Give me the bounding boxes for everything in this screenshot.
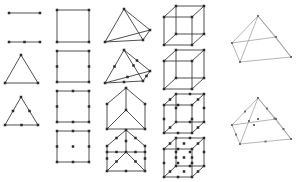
lattice-point (142, 39, 145, 42)
lattice-point (197, 170, 200, 173)
lattice-point (191, 104, 194, 107)
lattice-point (106, 145, 109, 148)
lattice-point (191, 16, 194, 19)
lattice-point (56, 65, 59, 68)
lattice-point (191, 88, 194, 91)
lattice-point (125, 140, 128, 143)
lattice-point (163, 104, 166, 107)
lattice-point (56, 41, 59, 44)
lattice-point (253, 124, 255, 126)
lattice-point (235, 134, 237, 136)
lattice-point (106, 157, 109, 160)
lattice-point (88, 161, 91, 164)
lattice-point (183, 170, 186, 173)
lattice-point (191, 132, 194, 135)
lattice-point (248, 120, 250, 122)
lattice-point (177, 104, 180, 107)
lattice-point (265, 141, 267, 143)
lattice-point (191, 156, 194, 159)
lattice-point (203, 49, 206, 52)
lattice-point (115, 137, 118, 140)
lattice-point (177, 176, 180, 179)
lattice-point (37, 82, 40, 85)
lattice-point (8, 41, 11, 44)
lattice-point (290, 56, 292, 58)
lattice-point (189, 93, 192, 96)
lattice-point (175, 137, 178, 140)
lattice-point (88, 105, 91, 108)
lattice-point (203, 93, 206, 96)
lattice-point (28, 110, 31, 113)
lattice-point (88, 9, 91, 12)
lattice-point (183, 142, 186, 145)
lattice-point (142, 80, 145, 83)
lattice-point (175, 156, 178, 159)
lattice-point (283, 128, 285, 130)
lattice-point (163, 118, 166, 121)
lattice-point (163, 162, 166, 165)
lattice-point (123, 8, 126, 11)
lattice-point (163, 88, 166, 91)
lattice-point (275, 36, 277, 38)
lattice-point (88, 90, 91, 93)
lattice-point (175, 49, 178, 52)
lattice-point (88, 121, 91, 124)
lattice-point (126, 76, 129, 79)
lattice-point (132, 64, 135, 67)
lattice-point (203, 77, 206, 80)
lattice-point (123, 81, 126, 84)
lattice-point (175, 77, 178, 80)
lattice-point (175, 5, 178, 8)
lattice-point (197, 142, 200, 145)
lattice-point (257, 118, 259, 120)
lattice-point (149, 70, 152, 73)
lattice-point (125, 170, 128, 173)
lattice-point (104, 41, 107, 44)
lattice-point (136, 59, 139, 62)
lattice-point (169, 142, 172, 145)
lattice-point (134, 137, 137, 140)
lattice-point (144, 157, 147, 160)
lattice-point (106, 128, 109, 131)
lattice-point (203, 5, 206, 8)
lattice-point (290, 138, 292, 140)
lattice-point (144, 145, 147, 148)
polytope-diagram-canvas (0, 0, 299, 182)
lattice-point (72, 90, 75, 93)
lattice-point (191, 118, 194, 121)
lattice-point (189, 151, 192, 154)
lattice-point (106, 103, 109, 106)
lattice-point (183, 156, 186, 159)
lattice-point (169, 126, 172, 129)
lattice-point (203, 33, 206, 36)
lattice-point (191, 44, 194, 47)
lattice-point (88, 41, 91, 44)
lattice-point (169, 98, 172, 101)
lattice-point (203, 165, 206, 168)
lattice-point (191, 60, 194, 63)
lattice-point (115, 160, 118, 163)
lattice-point (39, 41, 42, 44)
lattice-point (189, 121, 192, 124)
lattice-point (113, 65, 116, 68)
lattice-point (144, 103, 147, 106)
lattice-point (163, 176, 166, 179)
lattice-point (197, 126, 200, 129)
lattice-point (56, 121, 59, 124)
lattice-point (56, 9, 59, 12)
lattice-point (189, 137, 192, 140)
lattice-point (125, 87, 128, 90)
lattice-point (56, 145, 59, 148)
lattice-point (20, 96, 23, 99)
lattice-point (123, 49, 126, 52)
lattice-point (203, 121, 206, 124)
lattice-point (88, 81, 91, 84)
lattice-point (203, 137, 206, 140)
lattice-point (4, 82, 7, 85)
lattice-point (175, 33, 178, 36)
lattice-point (134, 160, 137, 163)
lattice-point (244, 111, 246, 113)
lattice-point (125, 151, 128, 154)
lattice-point (56, 105, 59, 108)
lattice-point (197, 98, 200, 101)
